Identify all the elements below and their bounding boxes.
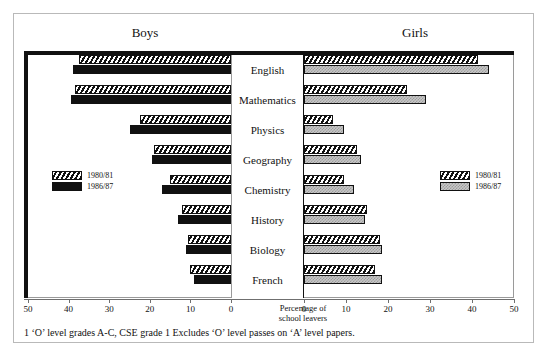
bar-girls-1986-87 (304, 155, 361, 164)
x-axis-tick (514, 299, 515, 303)
bar-girls-1986-87 (304, 275, 382, 284)
category-label: Chemistry (231, 175, 304, 205)
category-label: Mathematics (231, 85, 304, 115)
legend-label: 1986/87 (87, 182, 113, 191)
bar-girls-1986-87 (304, 215, 365, 224)
x-axis-tick-label: 40 (54, 304, 84, 314)
x-axis-title: Percentage of school leavers (248, 303, 358, 323)
bar-boys-1986-87 (71, 95, 231, 104)
x-axis-tick (109, 299, 110, 303)
bar-girls-1980-81 (304, 235, 380, 244)
category-label: Physics (231, 115, 304, 145)
bar-boys-1980-81 (190, 265, 231, 274)
legend-item: 1980/81 (440, 170, 501, 180)
x-axis-tick (472, 299, 473, 303)
panel-title-boys: Boys (60, 24, 230, 42)
legend-label: 1986/87 (475, 182, 501, 191)
x-axis-title-line2: school leavers (248, 313, 358, 323)
bar-boys-1986-87 (152, 155, 231, 164)
x-axis-tick (430, 299, 431, 303)
x-axis-tick-label: 50 (499, 304, 529, 314)
legend-label: 1980/81 (475, 171, 501, 180)
legend-item: 1980/81 (52, 170, 113, 180)
bar-boys-1980-81 (188, 235, 231, 244)
category-label: Biology (231, 235, 304, 265)
legend-girls: 1980/81 1986/87 (440, 170, 501, 192)
x-axis-tick-label: 20 (135, 304, 165, 314)
bar-boys-1980-81 (79, 55, 231, 64)
bar-boys-1980-81 (75, 85, 231, 94)
x-axis-title-line1: Percentage of (248, 303, 358, 313)
legend-item: 1986/87 (440, 181, 501, 191)
bar-girls-1980-81 (304, 145, 357, 154)
bar-girls-1980-81 (304, 205, 367, 214)
x-axis-tick-label: 20 (373, 304, 403, 314)
bar-boys-1986-87 (194, 275, 231, 284)
bar-boys-1986-87 (130, 125, 232, 134)
x-axis-tick-label: 50 (13, 304, 43, 314)
x-axis-line (24, 299, 514, 300)
bar-girls-1986-87 (304, 95, 426, 104)
category-label: Geography (231, 145, 304, 175)
x-axis-tick-label: 10 (175, 304, 205, 314)
x-axis-tick (150, 299, 151, 303)
bar-girls-1986-87 (304, 125, 344, 134)
x-axis-tick-label: 30 (94, 304, 124, 314)
bar-boys-1986-87 (162, 185, 231, 194)
bar-boys-1980-81 (154, 145, 231, 154)
bar-boys-1980-81 (182, 205, 231, 214)
bar-girls-1980-81 (304, 175, 344, 184)
bar-girls-1980-81 (304, 115, 333, 124)
legend-swatch-1986-87-girls (440, 182, 470, 191)
bar-girls-1980-81 (304, 265, 375, 274)
bar-boys-1980-81 (170, 175, 231, 184)
x-axis-tick (190, 299, 191, 303)
panel-title-girls: Girls (330, 24, 500, 42)
legend-boys: 1980/81 1986/87 (52, 170, 113, 192)
category-label: French (231, 265, 304, 295)
category-label: History (231, 205, 304, 235)
x-axis-tick (69, 299, 70, 303)
legend-swatch-1980-81-boys (52, 171, 82, 180)
bar-boys-1986-87 (178, 215, 231, 224)
bar-boys-1980-81 (140, 115, 231, 124)
bar-girls-1986-87 (304, 245, 382, 254)
legend-label: 1980/81 (87, 171, 113, 180)
x-axis-tick (28, 299, 29, 303)
bar-girls-1980-81 (304, 85, 407, 94)
bar-boys-1986-87 (73, 65, 231, 74)
x-axis-tick (388, 299, 389, 303)
x-axis-tick (231, 299, 232, 303)
bar-boys-1986-87 (186, 245, 231, 254)
x-axis-tick-label: 40 (457, 304, 487, 314)
chart-page: Boys Girls 1980/81 1986/87 1980/81 1986/… (0, 0, 548, 356)
bar-girls-1986-87 (304, 185, 354, 194)
category-label: English (231, 55, 304, 85)
legend-swatch-1986-87-boys (52, 182, 82, 191)
x-axis-tick-label: 30 (415, 304, 445, 314)
legend-item: 1986/87 (52, 181, 113, 191)
bar-girls-1986-87 (304, 65, 489, 74)
legend-swatch-1980-81-girls (440, 171, 470, 180)
x-axis-tick-label: 0 (216, 304, 246, 314)
footnote: 1 ‘O’ level grades A-C, CSE grade 1 Excl… (24, 327, 504, 339)
bar-girls-1980-81 (304, 55, 478, 64)
